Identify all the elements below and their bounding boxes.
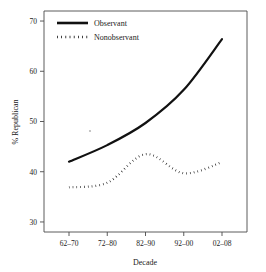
y-axis-tick-labels: 3040506070 <box>30 17 38 227</box>
scan-speck <box>89 130 91 132</box>
chart-legend: Observant Nonobservant <box>57 19 140 42</box>
x-tick-label: 72–80 <box>98 239 117 248</box>
y-tick-label: 60 <box>30 67 38 76</box>
chart-canvas: 3040506070 62–7072–8082–9092–0002–08 Obs… <box>0 0 266 272</box>
y-tick-label: 70 <box>30 17 38 26</box>
series-line-observant <box>69 39 222 162</box>
y-tick-label: 50 <box>30 117 38 126</box>
y-axis-ticks <box>40 21 44 222</box>
series-line-nonobservant <box>69 154 222 187</box>
y-tick-label: 30 <box>30 218 38 227</box>
chart-figure: 3040506070 62–7072–8082–9092–0002–08 Obs… <box>0 0 266 272</box>
x-axis-tick-labels: 62–7072–8082–9092–0002–08 <box>60 239 232 248</box>
x-tick-label: 62–70 <box>60 239 79 248</box>
legend-label-nonobservant: Nonobservant <box>94 33 140 42</box>
x-tick-label: 02–08 <box>213 239 232 248</box>
y-axis-title: % Republican <box>11 99 20 144</box>
x-tick-label: 82–90 <box>136 239 155 248</box>
y-tick-label: 40 <box>30 168 38 177</box>
legend-label-observant: Observant <box>94 19 128 28</box>
x-axis-title: Decade <box>133 258 157 267</box>
plot-frame <box>44 11 247 232</box>
x-axis-ticks <box>69 232 222 236</box>
x-tick-label: 92–00 <box>174 239 193 248</box>
